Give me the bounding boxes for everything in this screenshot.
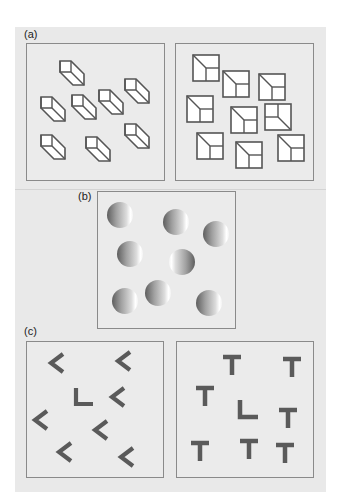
cube-icon [125, 79, 149, 103]
cube-icon [72, 95, 96, 119]
sphere-icon [117, 241, 143, 267]
cube-icon [41, 97, 65, 121]
t-letter-icon [276, 445, 294, 463]
cube-icon [125, 124, 149, 148]
t-letter-group [191, 357, 301, 463]
sphere-icon [107, 202, 133, 228]
square-icon [259, 74, 285, 100]
square-icon [193, 55, 219, 81]
stimuli-layer [0, 0, 340, 502]
sphere-group [107, 202, 229, 316]
chevron-icon [118, 352, 130, 370]
t-letter-icon [283, 359, 301, 377]
sphere-icon [145, 280, 171, 306]
square-group [187, 55, 304, 168]
chevron-icon [112, 388, 124, 406]
cube-icon [86, 137, 110, 161]
l-letter-icon [240, 400, 258, 417]
square-icon [236, 142, 262, 168]
sphere-icon [196, 290, 222, 316]
sphere-icon [112, 288, 138, 314]
cube-group [41, 61, 149, 161]
l-letter-icon [76, 388, 93, 404]
t-letter-icon [191, 443, 209, 461]
sphere-icon [163, 209, 189, 235]
odd-sphere-icon [169, 249, 195, 275]
square-icon [223, 71, 249, 97]
square-icon [231, 107, 257, 133]
square-icon [187, 96, 213, 122]
t-letter-icon [196, 388, 214, 406]
square-icon [278, 135, 304, 161]
cube-icon [60, 61, 84, 85]
chevron-icon [59, 443, 71, 461]
cube-icon [41, 135, 65, 159]
t-letter-icon [223, 357, 241, 375]
cube-icon [99, 90, 123, 114]
odd-square-icon [265, 104, 291, 130]
sphere-icon [203, 221, 229, 247]
chevron-icon [95, 421, 107, 439]
square-icon [197, 133, 223, 159]
chevron-icon [121, 448, 133, 466]
t-letter-icon [240, 441, 258, 459]
chevron-group [35, 352, 133, 466]
t-letter-icon [279, 410, 297, 428]
chevron-icon [35, 411, 47, 429]
chevron-icon [51, 354, 63, 372]
